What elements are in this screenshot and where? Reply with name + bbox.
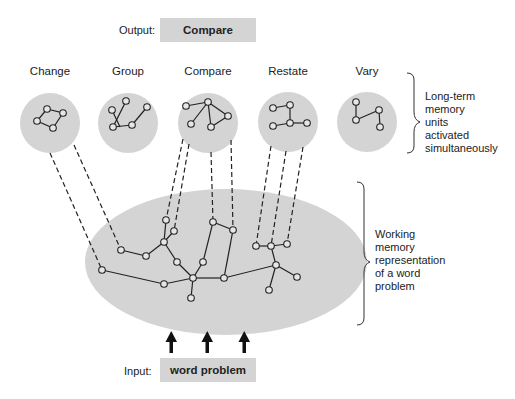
annotation-working-memory: Working memory representation of a word … <box>375 228 445 293</box>
input-label: Input: <box>124 365 152 377</box>
unit-circle-change <box>20 93 80 153</box>
brace-long-term <box>407 73 420 153</box>
diagram-canvas <box>0 0 515 399</box>
arrow-up-icon <box>166 331 178 353</box>
input-box: word problem <box>160 358 256 382</box>
annotation-long-term: Long-term memory units activated simulta… <box>425 90 498 155</box>
unit-circle-vary <box>337 92 397 152</box>
working-memory-ellipse <box>85 189 367 335</box>
